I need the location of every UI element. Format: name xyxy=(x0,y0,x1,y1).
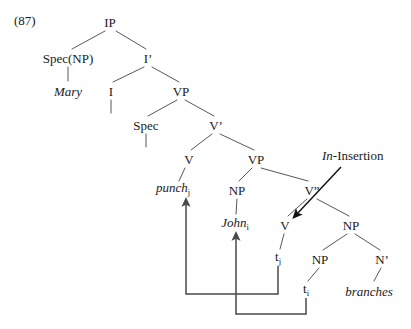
in-insertion-label-rest: -Insertion xyxy=(333,148,384,163)
branch-vp1-vbar xyxy=(185,100,214,116)
branch-ip-specnp xyxy=(72,31,105,49)
branch-np3-ti xyxy=(308,268,319,281)
tree-node-v1: V xyxy=(184,153,193,166)
tree-node-label: V xyxy=(184,152,193,167)
tree-node-subscript: j xyxy=(279,256,281,266)
branch-v1-punch xyxy=(179,168,185,181)
branch-np2-nbar xyxy=(355,234,380,250)
tree-node-label: V’ xyxy=(209,118,223,133)
branch-np2-np3 xyxy=(323,234,347,250)
syntax-tree-figure: (87) xyxy=(0,0,411,329)
tree-node-john: Johni xyxy=(221,216,249,233)
tree-node-label: Spec xyxy=(133,118,158,133)
tree-node-label: VP xyxy=(248,152,265,167)
tree-node-mary: Mary xyxy=(54,85,82,98)
branch-vp2-vdbl xyxy=(261,168,308,181)
tree-node-vp2: VP xyxy=(248,153,265,166)
branch-vdbl-np2 xyxy=(317,199,349,216)
tree-node-label: I xyxy=(109,84,113,99)
tree-node-label: Mary xyxy=(54,84,82,99)
tree-node-specnp: Spec(NP) xyxy=(43,52,94,65)
branch-ip-ibar xyxy=(116,31,146,49)
movement-path-ti-to-john xyxy=(236,236,306,314)
tree-node-label: John xyxy=(221,215,246,230)
tree-node-vdbl: V” xyxy=(304,184,319,197)
branch-vbar-v1 xyxy=(191,134,212,150)
tree-graphics xyxy=(0,0,411,329)
branch-vp1-spec xyxy=(148,100,177,116)
tree-node-vbar: V’ xyxy=(209,119,223,132)
branch-ibar-i xyxy=(113,67,144,82)
tree-node-i: I xyxy=(109,85,113,98)
tree-node-spec: Spec xyxy=(133,119,158,132)
tree-node-v2: V xyxy=(280,219,289,232)
tree-node-label: VP xyxy=(173,84,190,99)
tree-node-label: punch xyxy=(156,180,188,195)
branch-ibar-vp1 xyxy=(152,67,179,82)
tree-node-vp1: VP xyxy=(173,85,190,98)
tree-node-punch: punchj xyxy=(156,181,190,198)
tree-node-ti: ti xyxy=(303,282,309,299)
tree-node-np2: NP xyxy=(343,219,360,232)
tree-node-ibar: I’ xyxy=(144,52,153,65)
branch-vp2-np1 xyxy=(239,168,252,181)
tree-node-subscript: j xyxy=(188,187,190,197)
tree-node-label: N’ xyxy=(375,252,389,267)
tree-node-label: I’ xyxy=(144,51,153,66)
tree-node-nbar: N’ xyxy=(375,253,389,266)
branch-v2-tj xyxy=(280,234,284,249)
tree-node-label: Spec(NP) xyxy=(43,51,94,66)
branch-np1-john xyxy=(236,199,237,214)
in-insertion-label-italic: In xyxy=(322,148,333,163)
tree-node-label: V” xyxy=(304,183,319,198)
tree-node-np1: NP xyxy=(229,184,246,197)
tree-node-np3: NP xyxy=(312,253,329,266)
tree-node-label: branches xyxy=(345,284,393,299)
tree-node-label: NP xyxy=(343,218,360,233)
tree-node-label: NP xyxy=(229,183,246,198)
branch-vbar-vp2 xyxy=(220,134,254,150)
in-insertion-label: In-Insertion xyxy=(322,148,383,163)
tree-node-subscript: i xyxy=(307,288,309,298)
tree-node-ip: IP xyxy=(104,16,116,29)
tree-node-subscript: i xyxy=(246,222,248,232)
tree-node-label: V xyxy=(280,218,289,233)
tree-node-tj: tj xyxy=(275,250,281,267)
tree-node-label: NP xyxy=(312,252,329,267)
branch-nbar-branches xyxy=(374,268,381,281)
tree-node-label: IP xyxy=(104,15,116,30)
tree-node-branches: branches xyxy=(345,285,393,298)
